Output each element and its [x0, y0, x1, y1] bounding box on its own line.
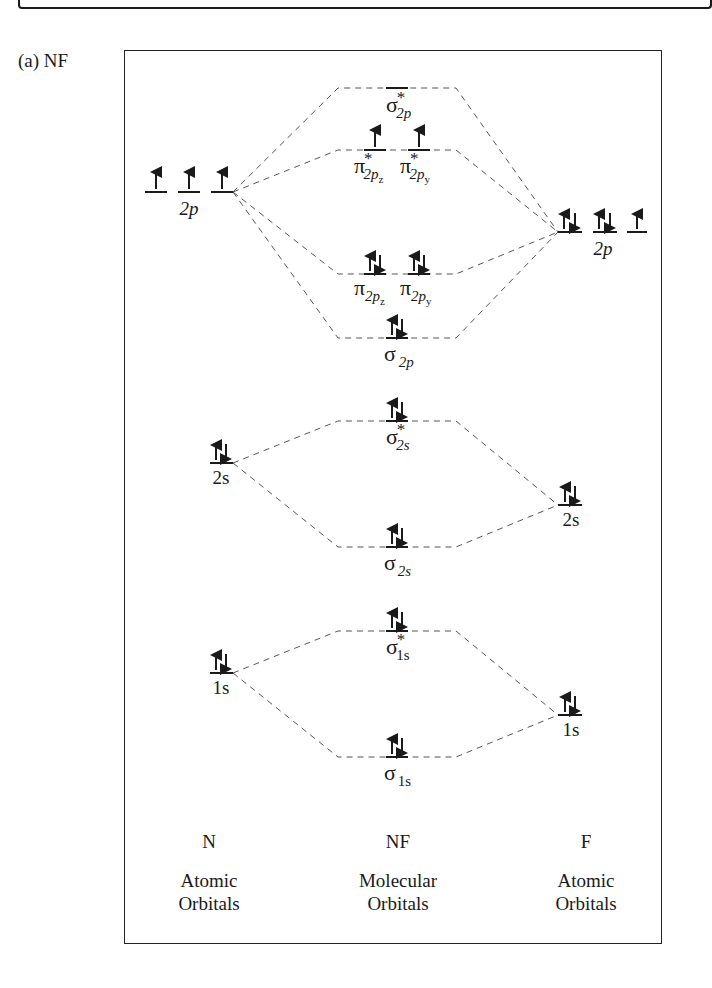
f-2s-orbital	[558, 486, 582, 505]
mo-pi-star-2py-label: π*2py	[400, 149, 431, 185]
mo-pi-star-2p	[364, 130, 430, 150]
caption-line: Orbitals	[511, 892, 661, 915]
f-2p-orbitals	[558, 213, 647, 232]
line-n2p-pi-star-2p	[233, 150, 558, 232]
mo-pi-2pz-label: π2pz	[354, 275, 385, 307]
line-n2p-sigma-2p	[233, 192, 558, 338]
f-2p-label: 2p	[594, 238, 613, 259]
line-1s-sigma	[233, 673, 558, 757]
n-2s-label: 2s	[213, 467, 230, 488]
f-1s-label: 1s	[563, 719, 580, 740]
line-2s-sigma	[233, 463, 558, 547]
caption-line: Molecular	[323, 869, 473, 892]
caption-line: Orbitals	[134, 892, 284, 915]
n-1s-label: 1s	[213, 677, 230, 698]
mo-sigma-star-2s	[386, 402, 408, 421]
mo-sigma-2s	[386, 528, 408, 547]
column-caption-nf: NF Molecular Orbitals	[323, 830, 473, 915]
column-caption-n: N Atomic Orbitals	[134, 830, 284, 915]
mo-sigma-1s-label: σ1s	[384, 760, 411, 789]
line-n2p-pi-2p	[233, 192, 558, 274]
mo-pi-2p	[364, 255, 430, 274]
mo-sigma-2p	[386, 319, 408, 338]
mo-sigma-1s	[386, 738, 408, 757]
mo-sigma-star-1s	[386, 612, 408, 631]
f-2s-label: 2s	[563, 509, 580, 530]
atom-label-f: F	[511, 830, 661, 853]
f-1s-orbital	[558, 696, 582, 715]
mo-sigma-2s-label: σ2s	[384, 550, 411, 579]
atom-label-n: N	[134, 830, 284, 853]
mo-sigma-2p-label: σ2p	[384, 341, 414, 370]
n-2s-orbital	[210, 444, 233, 463]
caption-line: Orbitals	[323, 892, 473, 915]
n-2p-label: 2p	[180, 198, 199, 219]
column-caption-f: F Atomic Orbitals	[511, 830, 661, 915]
caption-line: Atomic	[511, 869, 661, 892]
mo-sigma-star-2s-label: σ*2s	[386, 420, 410, 453]
n-2p-orbitals	[145, 172, 233, 192]
mo-pi-2py-label: π2py	[400, 275, 432, 307]
mo-sigma-star-1s-label: σ*1s	[386, 630, 410, 663]
caption-line: Atomic	[134, 869, 284, 892]
mo-sigma-star-2p-label: σ*2p	[386, 88, 412, 121]
n-1s-orbital	[210, 654, 233, 673]
molecule-label-nf: NF	[323, 830, 473, 853]
mo-pi-star-2pz-label: π*2pz	[354, 149, 384, 185]
